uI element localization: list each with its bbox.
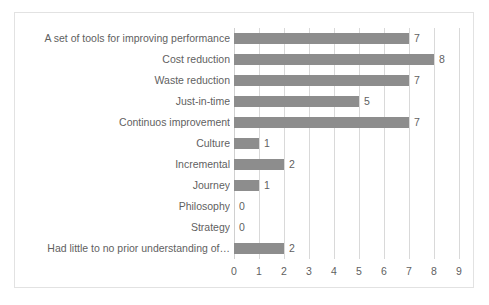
bar-value-label: 1 — [264, 135, 270, 151]
bar-row: 2 — [234, 154, 459, 175]
bar-row: 1 — [234, 175, 459, 196]
category-label: Just-in-time — [29, 91, 230, 112]
bar — [234, 96, 359, 107]
bar-row: 7 — [234, 112, 459, 133]
x-tick-label-8: 8 — [422, 262, 446, 280]
category-label: Philosophy — [29, 196, 230, 217]
bar-series: 20012175787 — [234, 28, 459, 259]
chart-frame: Had little to no prior understanding of…… — [14, 12, 474, 288]
bar-value-label: 1 — [264, 177, 270, 193]
category-label: Culture — [29, 133, 230, 154]
bar-row: 8 — [234, 49, 459, 70]
x-tick-label-0: 0 — [222, 262, 246, 280]
bar — [234, 117, 409, 128]
bar-value-label: 7 — [414, 30, 420, 46]
bar-row: 0 — [234, 196, 459, 217]
bar-row: 7 — [234, 28, 459, 49]
gridline-9 — [459, 28, 460, 259]
bar-value-label: 0 — [239, 219, 245, 235]
bar-value-label: 7 — [414, 72, 420, 88]
bar — [234, 54, 434, 65]
bar-value-label: 8 — [439, 51, 445, 67]
x-tick-label-4: 4 — [322, 262, 346, 280]
bar-value-label: 2 — [289, 156, 295, 172]
category-label: Journey — [29, 175, 230, 196]
category-label: Waste reduction — [29, 70, 230, 91]
value-axis-labels: 0123456789 — [234, 262, 459, 280]
x-tick-label-5: 5 — [347, 262, 371, 280]
bar — [234, 33, 409, 44]
bar-row: 2 — [234, 238, 459, 259]
category-label: Had little to no prior understanding of… — [29, 238, 230, 259]
category-label: Continuos improvement — [29, 112, 230, 133]
x-tick-label-3: 3 — [297, 262, 321, 280]
bar-row: 0 — [234, 217, 459, 238]
bar-row: 1 — [234, 133, 459, 154]
bar-row: 7 — [234, 70, 459, 91]
x-tick-label-7: 7 — [397, 262, 421, 280]
x-tick-label-1: 1 — [247, 262, 271, 280]
x-tick-label-2: 2 — [272, 262, 296, 280]
x-tick-label-6: 6 — [372, 262, 396, 280]
bar — [234, 243, 284, 254]
bar — [234, 180, 259, 191]
bar — [234, 138, 259, 149]
category-label: Cost reduction — [29, 49, 230, 70]
bar-value-label: 0 — [239, 198, 245, 214]
bar — [234, 159, 284, 170]
category-label: Strategy — [29, 217, 230, 238]
bar-value-label: 5 — [364, 93, 370, 109]
x-tick-label-9: 9 — [447, 262, 471, 280]
bar-row: 5 — [234, 91, 459, 112]
category-axis-labels: Had little to no prior understanding of…… — [29, 28, 230, 259]
bar — [234, 75, 409, 86]
bar-value-label: 7 — [414, 114, 420, 130]
plot-area: 20012175787 — [234, 28, 459, 259]
category-label: Incremental — [29, 154, 230, 175]
category-label: A set of tools for improving performance — [29, 28, 230, 49]
bar-value-label: 2 — [289, 240, 295, 256]
